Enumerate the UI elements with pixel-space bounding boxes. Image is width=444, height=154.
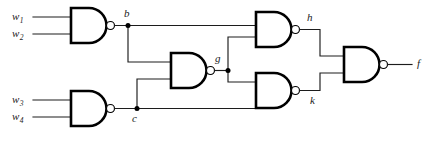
- node-label-g: g: [215, 53, 221, 64]
- output-label-f: f: [417, 58, 420, 69]
- node-label-b: b: [124, 8, 130, 19]
- input-label-w1: w1: [12, 11, 23, 22]
- gate-g-body: [171, 53, 207, 88]
- gate-h-output-bubble: [292, 26, 300, 34]
- wire-k-to-gate-f: [300, 73, 345, 91]
- gate-b-body: [71, 8, 107, 43]
- wire-g-to-gate-k: [228, 71, 256, 83]
- gate-g-output-bubble: [207, 67, 215, 75]
- input-label-w3: w3: [12, 94, 23, 105]
- node-label-c: c: [132, 113, 137, 124]
- wire-h-to-gate-f: [300, 30, 345, 57]
- gate-b-output-bubble: [107, 22, 115, 30]
- wire-b-to-gate-g: [128, 26, 171, 63]
- node-label-k: k: [310, 95, 315, 106]
- wire-c-to-gate-g: [137, 79, 171, 109]
- gate-k-body: [256, 73, 292, 108]
- circuit-schematic: [0, 0, 444, 154]
- wire-g-to-gate-h: [228, 37, 256, 71]
- nand-circuit-diagram: w1 w2 w3 w4 b c g h k f: [0, 0, 444, 154]
- junction-g: [226, 68, 231, 73]
- input-label-w4: w4: [12, 111, 23, 122]
- junction-b: [126, 23, 131, 28]
- node-label-h: h: [307, 12, 313, 23]
- gate-f-output-bubble: [380, 61, 388, 69]
- gate-h-body: [256, 12, 292, 47]
- gate-f-body: [344, 47, 380, 82]
- input-label-w2: w2: [12, 28, 23, 39]
- gate-c-output-bubble: [107, 105, 115, 113]
- junction-c: [135, 106, 140, 111]
- gate-k-output-bubble: [292, 87, 300, 95]
- gate-c-body: [71, 91, 107, 126]
